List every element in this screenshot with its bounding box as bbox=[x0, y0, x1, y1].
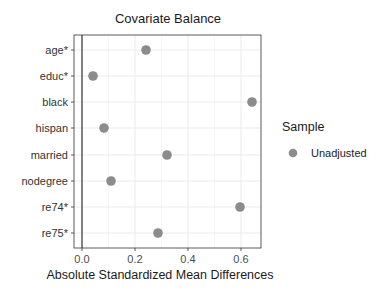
y-label-age: age* bbox=[45, 44, 68, 56]
y-label-re74: re74* bbox=[42, 201, 69, 213]
y-label-married: married bbox=[31, 149, 68, 161]
legend-title: Sample bbox=[282, 120, 324, 134]
x-tick-0-6: 0.6 bbox=[233, 253, 248, 265]
point-age bbox=[141, 45, 151, 55]
legend-key-icon bbox=[289, 149, 298, 158]
point-re75 bbox=[153, 228, 163, 238]
point-black bbox=[247, 97, 257, 107]
legend-label-unadjusted: Unadjusted bbox=[311, 147, 367, 159]
x-tick-0: 0.0 bbox=[74, 253, 89, 265]
chart-title: Covariate Balance bbox=[115, 11, 221, 26]
y-label-nodegree: nodegree bbox=[22, 175, 69, 187]
x-axis-ticks bbox=[82, 248, 241, 251]
point-hispan bbox=[99, 123, 109, 133]
point-educ bbox=[88, 71, 98, 81]
x-axis-title: Absolute Standardized Mean Differences bbox=[47, 268, 274, 282]
x-tick-0-4: 0.4 bbox=[180, 253, 195, 265]
point-nodegree bbox=[106, 176, 116, 186]
covariate-balance-chart: Covariate Balance bbox=[0, 0, 385, 295]
plot-panel bbox=[74, 35, 261, 248]
y-axis-ticks bbox=[71, 50, 74, 233]
x-axis-labels: 0.0 0.2 0.4 0.6 bbox=[74, 253, 248, 265]
legend: Sample Unadjusted bbox=[282, 120, 367, 159]
y-axis-labels: age* educ* black hispan married nodegree… bbox=[22, 44, 69, 239]
x-tick-0-2: 0.2 bbox=[127, 253, 142, 265]
y-label-re75: re75* bbox=[42, 227, 69, 239]
y-label-hispan: hispan bbox=[36, 122, 68, 134]
y-label-black: black bbox=[42, 96, 68, 108]
point-married bbox=[162, 150, 172, 160]
point-re74 bbox=[235, 202, 245, 212]
y-label-educ: educ* bbox=[40, 70, 69, 82]
